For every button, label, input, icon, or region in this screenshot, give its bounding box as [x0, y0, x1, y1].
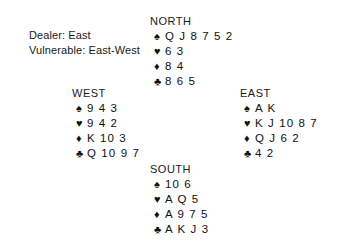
west-hearts-cards: 9 4 2 [87, 117, 118, 129]
west-hearts-row: ♥9 4 2 [72, 116, 140, 131]
diamond-icon: ♦ [244, 131, 255, 146]
west-spades-row: ♠9 4 3 [72, 101, 140, 116]
east-hearts-row: ♥K J 10 8 7 [240, 116, 318, 131]
north-diamonds-cards: 8 4 [165, 60, 184, 72]
south-clubs-cards: A K J 3 [165, 223, 209, 235]
hand-south: SOUTH ♠10 6 ♥A Q 5 ♦A 9 7 5 ♣A K J 3 [150, 162, 209, 237]
south-spades-cards: 10 6 [165, 178, 192, 190]
dealer-line: Dealer: East [29, 28, 140, 43]
heart-icon: ♥ [154, 192, 165, 207]
hand-label-north: NORTH [150, 14, 233, 29]
north-hearts-cards: 6 3 [165, 45, 184, 57]
hand-label-east: EAST [240, 86, 318, 101]
west-clubs-row: ♣Q 10 9 7 [72, 146, 140, 161]
west-diamonds-row: ♦K 10 3 [72, 131, 140, 146]
club-icon: ♣ [154, 74, 165, 89]
spade-icon: ♠ [76, 101, 87, 116]
spade-icon: ♠ [154, 29, 165, 44]
hand-label-south: SOUTH [150, 162, 209, 177]
heart-icon: ♥ [154, 44, 165, 59]
south-hearts-cards: A Q 5 [165, 193, 199, 205]
spade-icon: ♠ [244, 101, 255, 116]
east-spades-row: ♠A K [240, 101, 318, 116]
heart-icon: ♥ [244, 116, 255, 131]
club-icon: ♣ [244, 146, 255, 161]
club-icon: ♣ [154, 222, 165, 237]
east-hearts-cards: K J 10 8 7 [255, 117, 318, 129]
diamond-icon: ♦ [154, 207, 165, 222]
south-diamonds-row: ♦A 9 7 5 [150, 207, 209, 222]
hand-label-west: WEST [72, 86, 140, 101]
deal-conditions: Dealer: East Vulnerable: East-West [29, 28, 140, 58]
south-hearts-row: ♥A Q 5 [150, 192, 209, 207]
diamond-icon: ♦ [76, 131, 87, 146]
east-spades-cards: A K [255, 102, 276, 114]
hand-north: NORTH ♠Q J 8 7 5 2 ♥6 3 ♦8 4 ♣8 6 5 [150, 14, 233, 89]
north-diamonds-row: ♦8 4 [150, 59, 233, 74]
east-clubs-row: ♣4 2 [240, 146, 318, 161]
west-diamonds-cards: K 10 3 [87, 132, 127, 144]
club-icon: ♣ [76, 146, 87, 161]
south-diamonds-cards: A 9 7 5 [165, 208, 209, 220]
bridge-deal-diagram: Dealer: East Vulnerable: East-West NORTH… [0, 0, 338, 243]
west-spades-cards: 9 4 3 [87, 102, 118, 114]
diamond-icon: ♦ [154, 59, 165, 74]
north-clubs-row: ♣8 6 5 [150, 74, 233, 89]
north-clubs-cards: 8 6 5 [165, 75, 196, 87]
west-clubs-cards: Q 10 9 7 [87, 147, 140, 159]
east-diamonds-row: ♦Q J 6 2 [240, 131, 318, 146]
east-clubs-cards: 4 2 [255, 147, 274, 159]
south-clubs-row: ♣A K J 3 [150, 222, 209, 237]
hand-east: EAST ♠A K ♥K J 10 8 7 ♦Q J 6 2 ♣4 2 [240, 86, 318, 161]
hand-west: WEST ♠9 4 3 ♥9 4 2 ♦K 10 3 ♣Q 10 9 7 [72, 86, 140, 161]
east-diamonds-cards: Q J 6 2 [255, 132, 300, 144]
south-spades-row: ♠10 6 [150, 177, 209, 192]
north-hearts-row: ♥6 3 [150, 44, 233, 59]
vulnerable-line: Vulnerable: East-West [29, 43, 140, 58]
north-spades-cards: Q J 8 7 5 2 [165, 30, 233, 42]
north-spades-row: ♠Q J 8 7 5 2 [150, 29, 233, 44]
spade-icon: ♠ [154, 177, 165, 192]
heart-icon: ♥ [76, 116, 87, 131]
